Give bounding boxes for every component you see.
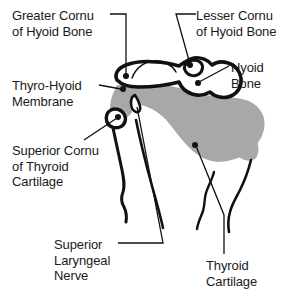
label-line: Greater Cornu [12,8,94,23]
label-line: Cartilage [206,274,257,289]
label-greater-cornu-of-hyoid-bone: Greater Cornuof Hyoid Bone [12,8,94,39]
label-thyro-hyoid-membrane: Thyro-HyoidMembrane [12,78,82,109]
label-superior-laryngeal-nerve: SuperiorLaryngealNerve [54,237,110,284]
thyroid-cartilage-inferior-wave [197,172,214,229]
label-line: Lesser Cornu [196,8,273,23]
label-line: Superior Cornu [12,143,99,158]
label-superior-cornu-of-thyroid-cartilage: Superior Cornuof ThyroidCartilage [12,143,99,190]
thyroid-cartilage-anterior-border [113,128,126,222]
label-line: Laryngeal [54,253,110,268]
label-hyoid-bone: HyoidBone [231,60,264,91]
label-line: Thyro-Hyoid [12,78,82,93]
label-line: of Hyoid Bone [196,24,276,39]
label-line: Bone [231,76,261,91]
label-thyroid-cartilage: ThyroidCartilage [206,258,257,289]
label-line: Hyoid [231,60,264,75]
label-line: Cartilage [12,174,63,189]
label-lesser-cornu-of-hyoid-bone: Lesser Cornuof Hyoid Bone [196,8,276,39]
label-line: Membrane [12,94,73,109]
label-line: Nerve [54,268,88,283]
lesser-cornu-detail [185,60,203,75]
label-line: Superior [54,237,102,252]
thyroid-cartilage-posterior-border [228,160,251,232]
label-line: of Thyroid [12,159,69,174]
label-line: of Hyoid Bone [12,24,92,39]
anatomical-figure: Greater Cornuof Hyoid Bone Lesser Cornuo… [0,0,286,295]
label-line: Thyroid [206,258,249,273]
